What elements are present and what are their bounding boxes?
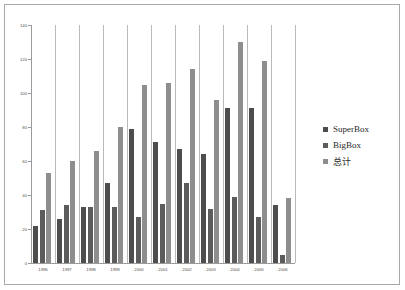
bar <box>81 207 86 263</box>
bar <box>153 142 158 263</box>
x-tick-label: 1996 <box>31 267 55 272</box>
bar <box>225 108 230 263</box>
bar <box>249 108 254 263</box>
legend-label: SuperBox <box>333 124 369 134</box>
legend-label: 总计 <box>333 155 351 168</box>
category-separator <box>295 25 296 263</box>
bar <box>142 85 147 264</box>
bar <box>57 219 62 263</box>
bar <box>94 151 99 263</box>
x-axis-line <box>31 263 295 264</box>
bar-group: 2000 <box>127 25 151 263</box>
x-tick-label: 1997 <box>55 267 79 272</box>
x-tick-label: 1999 <box>103 267 127 272</box>
y-tick-label: 100 <box>20 91 27 96</box>
x-tick-label: 2005 <box>247 267 271 272</box>
bar <box>201 154 206 263</box>
plot-area: 140120100806040200 199619971998199920002… <box>31 21 295 263</box>
bar <box>280 255 285 264</box>
bar <box>238 42 243 263</box>
y-tick-label: 60 <box>22 159 27 164</box>
legend-item[interactable]: BigBox <box>323 137 397 153</box>
bar-group: 2004 <box>223 25 247 263</box>
bar-group: 2001 <box>151 25 175 263</box>
x-tick-label: 2003 <box>199 267 223 272</box>
chart-frame: 140120100806040200 199619971998199920002… <box>4 4 400 285</box>
y-tick-label: 80 <box>22 125 27 130</box>
bar-group: 1996 <box>31 25 55 263</box>
legend-item[interactable]: SuperBox <box>323 121 397 137</box>
bar <box>46 173 51 263</box>
bar <box>184 183 189 263</box>
bar <box>208 209 213 263</box>
y-tick-label: 0 <box>25 261 27 266</box>
bar-group: 1997 <box>55 25 79 263</box>
bar <box>136 217 141 263</box>
bar <box>262 61 267 263</box>
x-tick-label: 2004 <box>223 267 247 272</box>
bar-group: 1998 <box>79 25 103 263</box>
bar <box>177 149 182 263</box>
y-tick-label: 40 <box>22 193 27 198</box>
chart-legend: SuperBoxBigBox总计 <box>323 121 397 169</box>
x-tick-label: 2001 <box>151 267 175 272</box>
bar <box>214 100 219 263</box>
bar <box>40 210 45 263</box>
bar <box>256 217 261 263</box>
bar-group: 2005 <box>247 25 271 263</box>
bar <box>166 83 171 263</box>
bar <box>232 197 237 263</box>
x-tick-label: 1998 <box>79 267 103 272</box>
bar <box>88 207 93 263</box>
legend-item[interactable]: 总计 <box>323 153 397 169</box>
legend-swatch-icon <box>323 159 328 164</box>
legend-swatch-icon <box>323 143 328 148</box>
x-tick-label: 2000 <box>127 267 151 272</box>
bar-group: 1999 <box>103 25 127 263</box>
bar <box>33 226 38 263</box>
bar <box>112 207 117 263</box>
bar-group: 2002 <box>175 25 199 263</box>
bar <box>160 204 165 264</box>
y-tick-label: 20 <box>22 227 27 232</box>
bar <box>64 205 69 263</box>
bar <box>129 129 134 263</box>
plot-inner: 140120100806040200 199619971998199920002… <box>31 25 295 263</box>
bar <box>118 127 123 263</box>
bar-group: 2006 <box>271 25 295 263</box>
x-tick-label: 2006 <box>271 267 295 272</box>
legend-swatch-icon <box>323 127 328 132</box>
y-tick-label: 140 <box>20 23 27 28</box>
bar <box>273 205 278 263</box>
bar <box>190 69 195 263</box>
y-tick-mark <box>28 263 31 264</box>
x-tick-label: 2002 <box>175 267 199 272</box>
legend-label: BigBox <box>333 140 361 150</box>
bar <box>286 198 291 263</box>
bar <box>70 161 75 263</box>
bar <box>105 183 110 263</box>
y-tick-label: 120 <box>20 57 27 62</box>
bar-group: 2003 <box>199 25 223 263</box>
